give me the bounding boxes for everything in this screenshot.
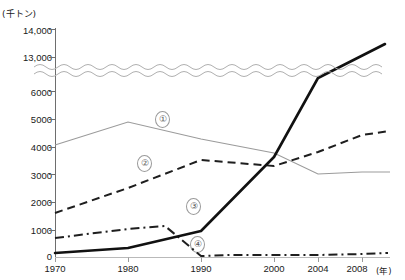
- axis-break-wave: [34, 65, 382, 77]
- chart-plot-area: [0, 0, 405, 280]
- line-chart: (千トン) 14,000 13,000 6000 5000 4000 3000 …: [0, 0, 405, 280]
- y-axis-ticks: [49, 30, 56, 231]
- series-line-1: [55, 122, 390, 174]
- axes-group: [49, 28, 390, 262]
- x-axis-ticks: [56, 258, 363, 263]
- series-line-4: [55, 226, 388, 256]
